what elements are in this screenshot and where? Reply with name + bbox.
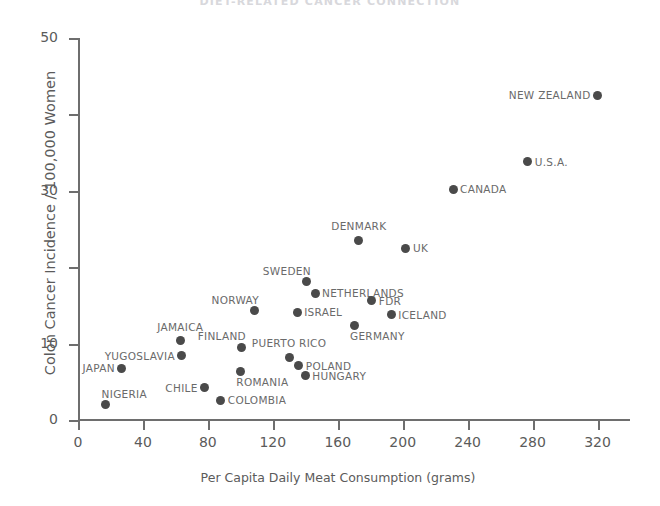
data-point-label: HUNGARY [312, 370, 366, 382]
data-point-label: CANADA [460, 183, 506, 195]
y-tick-label: 0 [18, 411, 58, 427]
data-point-label: JAPAN [83, 362, 115, 374]
scatter-chart: DIET-RELATED CANCER CONNECTION Colon Can… [0, 0, 660, 506]
y-tick-label: 30 [18, 182, 58, 198]
data-point-label: U.S.A. [535, 156, 568, 168]
data-point-label: FDR [379, 295, 401, 307]
x-tick [598, 421, 600, 430]
data-point-label: FINLAND [198, 330, 246, 342]
data-point-label: ISRAEL [304, 306, 342, 318]
data-point-label: DENMARK [331, 220, 386, 232]
x-tick [143, 421, 145, 430]
data-point-label: YUGOSLAVIA [105, 350, 175, 362]
x-tick [468, 421, 470, 430]
x-tick [403, 421, 405, 430]
data-point[interactable] [449, 185, 458, 194]
data-point-label: SWEDEN [263, 265, 311, 277]
data-point[interactable] [311, 289, 320, 298]
x-tick [208, 421, 210, 430]
data-point[interactable] [216, 396, 225, 405]
x-tick-label: 40 [118, 434, 168, 450]
data-point[interactable] [200, 383, 209, 392]
y-tick [69, 344, 78, 346]
data-point-label: JAMAICA [157, 321, 203, 333]
y-axis-title: Colon Cancer Incidence / 100,000 Women [42, 23, 58, 423]
data-point[interactable] [236, 367, 245, 376]
x-tick-label: 120 [248, 434, 298, 450]
data-point[interactable] [302, 277, 311, 286]
data-point[interactable] [367, 296, 376, 305]
x-tick-label: 240 [443, 434, 493, 450]
x-tick-label: 80 [183, 434, 233, 450]
data-point[interactable] [250, 306, 259, 315]
data-point[interactable] [237, 343, 246, 352]
data-point[interactable] [354, 236, 363, 245]
data-point-label: NEW ZEALAND [509, 89, 591, 101]
data-point-label: PUERTO RICO [252, 337, 327, 349]
data-point-label: UK [413, 242, 428, 254]
x-tick [78, 421, 80, 430]
data-point[interactable] [401, 244, 410, 253]
data-point[interactable] [293, 308, 302, 317]
data-point[interactable] [593, 91, 602, 100]
chart-title: DIET-RELATED CANCER CONNECTION [0, 0, 660, 6]
data-point-label: COLOMBIA [228, 394, 286, 406]
data-point-label: GERMANY [350, 330, 405, 342]
x-tick-label: 280 [508, 434, 558, 450]
y-tick [69, 420, 78, 422]
data-point[interactable] [301, 371, 310, 380]
data-point[interactable] [117, 364, 126, 373]
plot-area: NIGERIAJAPANYUGOSLAVIAJAMAICACHILECOLOMB… [78, 38, 630, 420]
y-tick [69, 191, 78, 193]
y-tick [69, 38, 78, 40]
data-point[interactable] [177, 351, 186, 360]
data-point[interactable] [387, 310, 396, 319]
y-tick [69, 114, 78, 116]
data-point-label: CHILE [165, 382, 197, 394]
data-point[interactable] [101, 400, 110, 409]
y-tick-label: 10 [18, 335, 58, 351]
data-point[interactable] [523, 157, 532, 166]
x-tick [273, 421, 275, 430]
data-point-label: ICELAND [398, 309, 446, 321]
x-tick-label: 320 [573, 434, 623, 450]
x-tick [338, 421, 340, 430]
x-tick-label: 160 [313, 434, 363, 450]
data-point[interactable] [294, 361, 303, 370]
data-point-label: NIGERIA [102, 388, 147, 400]
data-point-label: NORWAY [212, 294, 259, 306]
x-tick-label: 0 [53, 434, 103, 450]
data-point[interactable] [350, 321, 359, 330]
x-tick-label: 200 [378, 434, 428, 450]
data-point-label: ROMANIA [236, 376, 288, 388]
y-tick [69, 267, 78, 269]
x-axis-title: Per Capita Daily Meat Consumption (grams… [78, 470, 598, 485]
data-point[interactable] [176, 336, 185, 345]
data-point[interactable] [285, 353, 294, 362]
y-tick-label: 50 [18, 29, 58, 45]
x-tick [533, 421, 535, 430]
